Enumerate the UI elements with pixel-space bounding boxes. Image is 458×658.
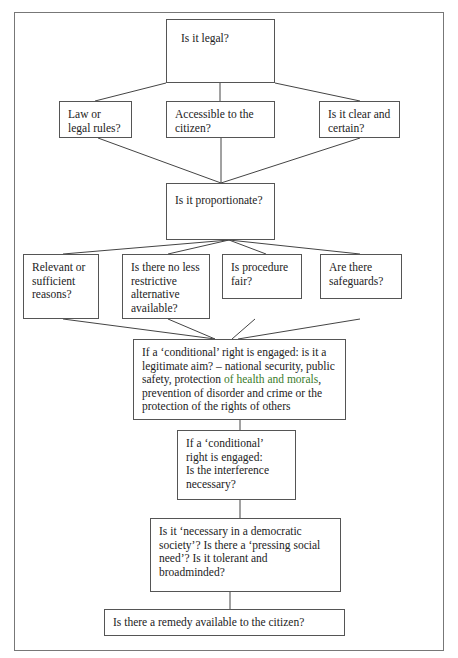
node-relevant-reasons: Relevant or sufficient reasons? <box>23 254 99 319</box>
node-clear-and-certain: Is it clear and certain? <box>319 101 400 138</box>
node-procedure-fair: Is procedure fair? <box>222 254 302 299</box>
node-interference-necessary: If a ‘conditional’ right is engaged: Is … <box>177 430 296 500</box>
node-law-or-legal-rules: Law or legal rules? <box>59 101 132 138</box>
node-accessible-to-citizen: Accessible to the citizen? <box>166 101 275 138</box>
node-label: Is there a remedy available to the citiz… <box>113 616 304 628</box>
node-label-line2: Is the interference necessary? <box>186 464 287 491</box>
node-safeguards: Are there safeguards? <box>320 254 402 299</box>
node-label: Is it legal? <box>181 32 229 44</box>
node-less-restrictive-alternative: Is there no less restrictive alternative… <box>122 254 210 319</box>
node-label: Is it clear and certain? <box>328 108 390 134</box>
node-label-line1: If a ‘conditional’ right is engaged: <box>186 437 287 464</box>
node-label: Relevant or sufficient reasons? <box>32 261 85 300</box>
node-label: Is there no less restrictive alternative… <box>131 261 200 314</box>
node-is-it-proportionate: Is it proportionate? <box>166 183 275 240</box>
node-label: Accessible to the citizen? <box>175 108 254 134</box>
node-is-it-legal: Is it legal? <box>166 19 275 83</box>
node-label: Law or legal rules? <box>68 108 121 134</box>
node-label: Is it ‘necessary in a democratic society… <box>159 525 320 578</box>
node-label: Is it proportionate? <box>175 194 263 206</box>
node-label: Is procedure fair? <box>231 261 288 287</box>
node-legitimate-aim: If a ‘conditional’ right is engaged: is … <box>133 339 346 420</box>
node-democratic-society: Is it ‘necessary in a democratic society… <box>150 518 341 592</box>
node-label: Are there safeguards? <box>329 261 383 287</box>
node-label-highlight: of health and morals <box>224 373 318 385</box>
node-remedy-available: Is there a remedy available to the citiz… <box>104 609 345 636</box>
